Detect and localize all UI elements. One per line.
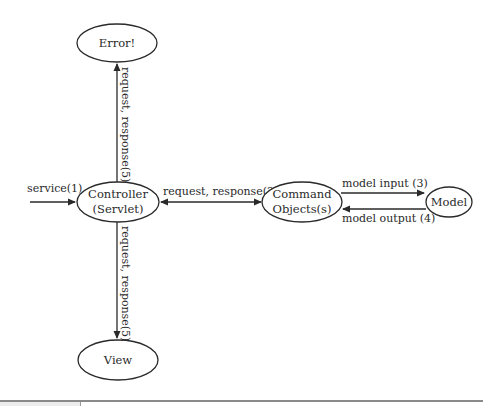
node-view-label: View	[103, 353, 133, 367]
edge-label-model-output: model output (4)	[342, 212, 435, 225]
edge-label-service: service(1)	[27, 182, 82, 195]
node-error-label: Error!	[99, 36, 135, 50]
node-view: View	[78, 340, 158, 380]
edge-label-model-input: model input (3)	[342, 177, 428, 190]
edge-model-output: model output (4)	[342, 209, 435, 225]
node-model-label: Model	[431, 195, 468, 209]
edge-model-input: model input (3)	[341, 177, 428, 193]
edge-label-controller-error: request, response(5)	[119, 67, 132, 182]
edge-label-controller-view: request, response(5)	[119, 226, 132, 341]
edge-label-controller-command: request, response(2)	[163, 185, 278, 198]
node-controller-label-line2: (Servlet)	[93, 202, 144, 216]
edge-controller-view: request, response(5)	[117, 222, 132, 341]
node-model: Model	[426, 187, 472, 217]
node-controller: Controller (Servlet)	[77, 182, 159, 222]
bottom-tab	[0, 402, 81, 406]
edge-controller-error: request, response(5)	[117, 64, 132, 182]
mvc-diagram: service(1) request, response(2) model in…	[0, 0, 497, 406]
node-command-label-line2: Objects(s)	[273, 202, 332, 216]
node-command: Command Objects(s)	[262, 182, 342, 222]
node-controller-label-line1: Controller	[88, 187, 148, 201]
edge-service: service(1)	[27, 182, 82, 202]
node-error: Error!	[77, 24, 157, 62]
node-command-label-line1: Command	[272, 187, 332, 201]
edge-controller-command: request, response(2)	[161, 185, 278, 202]
